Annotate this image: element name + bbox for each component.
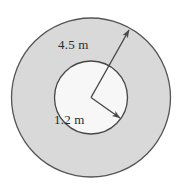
annulus-diagram-svg (0, 0, 183, 195)
inner-radius-label: 1.2 m (54, 113, 85, 126)
circle-diagram-figure: 4.5 m 1.2 m (0, 0, 183, 195)
outer-radius-label: 4.5 m (58, 38, 89, 51)
